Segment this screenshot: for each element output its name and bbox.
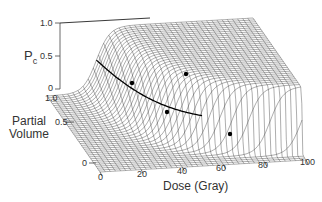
axes — [55, 18, 308, 176]
data-point — [184, 72, 188, 76]
y-axis-title: Partial Volume — [9, 115, 49, 140]
z-tick-0: 0 — [48, 84, 53, 93]
data-point — [228, 132, 232, 136]
x-tick-20: 20 — [137, 170, 147, 179]
x-tick-80: 80 — [258, 161, 268, 170]
x-axis-title: Dose (Gray) — [163, 180, 228, 193]
x-tick-60: 60 — [216, 164, 226, 173]
z-tick-0.5: 0.5 — [40, 52, 53, 61]
data-point — [165, 110, 169, 114]
z-axis-title: Pc — [24, 49, 37, 66]
x-tick-0: 0 — [98, 173, 103, 182]
data-point — [130, 81, 134, 85]
y-tick-0.5: 0.5 — [55, 118, 68, 127]
y-tick-0: 0 — [82, 159, 87, 168]
x-tick-40: 40 — [177, 167, 187, 176]
x-tick-100: 100 — [300, 158, 315, 167]
surface-mesh — [47, 18, 306, 172]
z-tick-1: 1.0 — [40, 19, 53, 28]
y-tick-1: 1.0 — [45, 94, 58, 103]
